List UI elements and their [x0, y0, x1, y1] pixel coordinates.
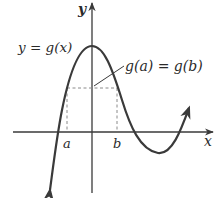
curve-label: y = g(x) [17, 39, 72, 55]
point-a-label: a [63, 136, 71, 151]
annotation-label: g(a) = g(b) [125, 58, 203, 74]
point-b-label: b [113, 136, 121, 151]
x-axis-label: x [204, 133, 212, 149]
annotation-leader-line [94, 66, 124, 86]
curve-label-lhs: y [17, 39, 26, 55]
curve-label-rhs: g(x) [46, 39, 73, 55]
y-axis-label: y [77, 1, 87, 17]
function-graph-diagram: y x y = g(x) g(a) = g(b) a b [0, 0, 218, 198]
curve-label-eq: = [26, 39, 46, 55]
graph-svg: y x y = g(x) g(a) = g(b) a b [0, 0, 218, 198]
